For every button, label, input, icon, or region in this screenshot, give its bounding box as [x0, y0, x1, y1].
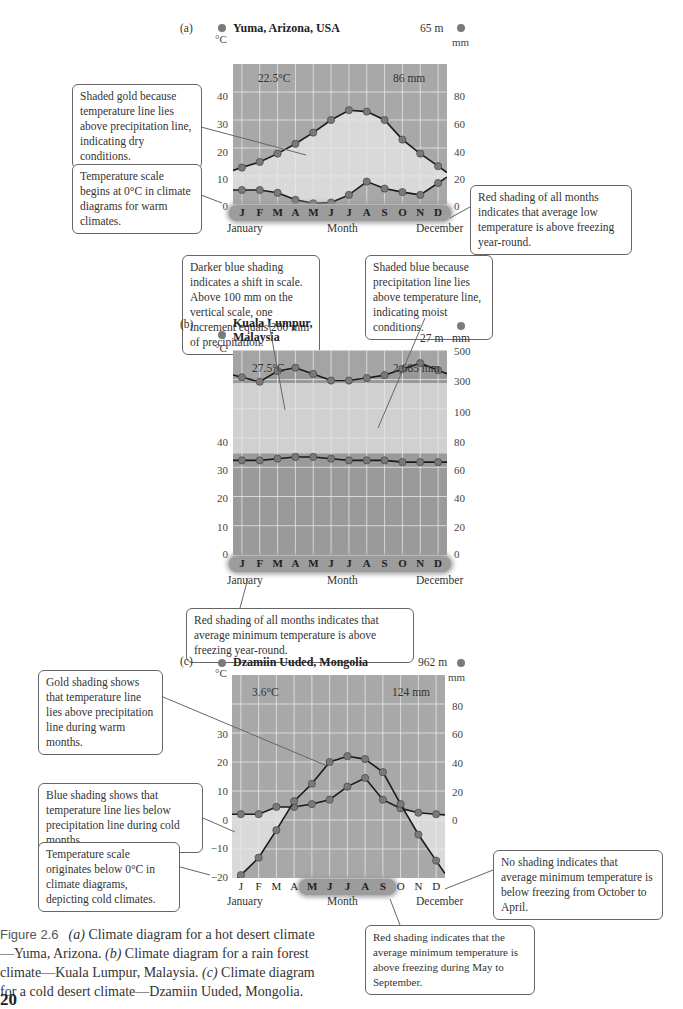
temp-axis-c: 30 20 10 0 −10 −20 — [200, 728, 230, 888]
precipitation-dot-icon — [457, 322, 465, 330]
month-label: M — [308, 206, 318, 218]
elevation-a: 65 m — [420, 22, 443, 34]
axis-start-label-c: January — [227, 895, 263, 907]
note-c-temp-scale: Temperature scale originates below 0°C i… — [38, 842, 180, 912]
month-label: F — [255, 557, 265, 569]
month-label: J — [342, 880, 352, 892]
month-label: A — [289, 880, 299, 892]
note-b-blue-shading: Shaded blue because precipitation line l… — [365, 255, 493, 340]
month-label: N — [415, 206, 425, 218]
precip-axis-b: 500 300 100 80 60 40 20 0 — [450, 345, 480, 560]
month-label: J — [344, 557, 354, 569]
month-axis-a: JFMAMJJASOND — [233, 205, 447, 221]
temperature-dot-icon — [218, 24, 226, 32]
axis-mid-label-c: Month — [327, 895, 358, 907]
station-title-c: Dzamiin Uuded, Mongolia — [233, 655, 368, 669]
month-label: O — [396, 880, 406, 892]
month-label: N — [413, 880, 423, 892]
month-label: J — [326, 557, 336, 569]
month-label: A — [290, 206, 300, 218]
month-label: D — [433, 557, 443, 569]
month-label: M — [307, 880, 317, 892]
axis-start-label-a: January — [227, 222, 263, 234]
mean-temp-b: 27.5°C — [252, 362, 284, 374]
note-a-red-shading: Red shading of all months indicates that… — [470, 185, 632, 255]
elevation-b: 27 m — [420, 332, 443, 344]
elevation-c: 962 m — [418, 656, 447, 668]
month-label: J — [325, 880, 335, 892]
precip-unit-c: mm — [448, 671, 465, 683]
month-label: M — [271, 880, 281, 892]
temp-axis-b: 40 30 20 10 0 — [210, 436, 230, 561]
temp-axis-a: 40 30 20 10 0 — [210, 90, 230, 210]
axis-mid-label-a: Month — [327, 222, 358, 234]
axis-start-label-b: January — [227, 574, 263, 586]
axis-end-label-c: December — [416, 895, 463, 907]
panel-label-b: (b) — [180, 318, 193, 330]
month-label: J — [237, 206, 247, 218]
mean-temp-c: 3.6°C — [252, 686, 279, 698]
month-label: O — [397, 557, 407, 569]
month-label: F — [254, 880, 264, 892]
month-label: J — [344, 206, 354, 218]
climate-chart-c — [232, 675, 445, 878]
station-title-a: Yuma, Arizona, USA — [233, 21, 340, 35]
annual-precip-c: 124 mm — [392, 686, 430, 698]
month-label: N — [415, 557, 425, 569]
month-axis-b: JFMAMJJASOND — [233, 556, 447, 572]
month-label: M — [308, 557, 318, 569]
month-label: D — [431, 880, 441, 892]
precip-unit-b: mm — [452, 332, 470, 344]
temperature-dot-icon — [218, 331, 226, 339]
month-label: A — [362, 557, 372, 569]
panel-label-c: (c) — [180, 655, 193, 667]
note-c-no-shading: No shading indicates that average minimu… — [493, 850, 663, 920]
month-label: S — [378, 880, 388, 892]
month-label: M — [273, 206, 283, 218]
page-number: 20 — [0, 990, 17, 1009]
note-c-red-shading: Red shading indicates that the average m… — [365, 925, 535, 995]
note-a-gold-shading: Shaded gold because temperature line lie… — [72, 84, 202, 169]
month-label: A — [360, 880, 370, 892]
figure-caption: Figure 2.6(a) Climate diagram for a hot … — [0, 925, 320, 1001]
mean-temp-a: 22.5°C — [258, 72, 290, 84]
month-axis-c: JFMAMJJASOND — [232, 879, 445, 895]
temp-unit-c: °C — [215, 667, 227, 679]
month-label: J — [236, 880, 246, 892]
month-label: O — [397, 206, 407, 218]
annual-precip-b: 2,685 mm — [393, 362, 440, 374]
precip-unit-a: mm — [452, 36, 469, 48]
figure-number: Figure 2.6 — [0, 927, 59, 942]
panel-label-a: (a) — [180, 22, 193, 34]
note-c-gold-shading: Gold shading shows that temperature line… — [38, 670, 163, 755]
precipitation-dot-icon — [457, 24, 465, 32]
annual-precip-a: 86 mm — [393, 72, 425, 84]
month-label: M — [273, 557, 283, 569]
month-label: S — [380, 206, 390, 218]
month-label: J — [326, 206, 336, 218]
precipitation-dot-icon — [457, 659, 465, 667]
temp-unit-a: °C — [215, 33, 227, 45]
month-label: F — [255, 206, 265, 218]
month-label: J — [237, 557, 247, 569]
axis-end-label-a: December — [416, 222, 463, 234]
station-title-b-line2: Malaysia — [233, 330, 280, 344]
axis-end-label-b: December — [416, 574, 463, 586]
climate-chart-b — [233, 350, 447, 555]
precip-axis-c: 80 60 40 20 0 — [448, 700, 478, 820]
month-label: A — [362, 206, 372, 218]
axis-mid-label-b: Month — [327, 574, 358, 586]
month-label: D — [433, 206, 443, 218]
temperature-dot-icon — [218, 659, 226, 667]
month-label: S — [380, 557, 390, 569]
note-a-temp-scale: Temperature scale begins at 0°C in clima… — [72, 164, 202, 234]
climate-chart-a — [233, 64, 447, 204]
temp-unit-b: °C — [215, 342, 227, 354]
month-label: A — [290, 557, 300, 569]
station-title-b-line1: Kuala Lumpur, — [233, 316, 313, 330]
